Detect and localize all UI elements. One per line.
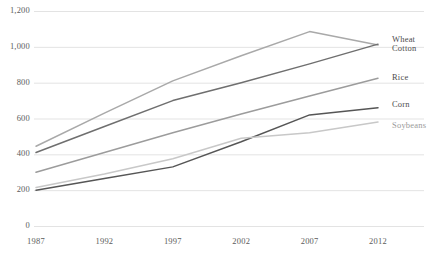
- x-tick-1987: 1987: [16, 236, 56, 246]
- y-tick-400: 400: [0, 148, 30, 158]
- series-lines: [36, 32, 378, 191]
- x-tick-2002: 2002: [221, 236, 261, 246]
- x-tick-1992: 1992: [84, 236, 124, 246]
- y-tick-1200: 1,200: [0, 5, 30, 15]
- series-line-cotton: [36, 44, 378, 152]
- y-tick-600: 600: [0, 113, 30, 123]
- y-tick-800: 800: [0, 77, 30, 87]
- series-line-wheat: [36, 32, 378, 147]
- y-tick-0: 0: [0, 220, 30, 230]
- series-label-cotton: Cotton: [392, 43, 416, 53]
- series-label-rice: Rice: [392, 72, 408, 82]
- x-tick-2012: 2012: [358, 236, 398, 246]
- series-label-corn: Corn: [392, 99, 410, 109]
- y-tick-200: 200: [0, 184, 30, 194]
- x-tick-1997: 1997: [153, 236, 193, 246]
- chart-canvas: [0, 0, 431, 253]
- x-tick-2007: 2007: [290, 236, 330, 246]
- y-tick-1000: 1,000: [0, 41, 30, 51]
- line-chart: 1,2001,0008006004002000 1987199219972002…: [0, 0, 431, 253]
- series-label-soybeans: Soybeans: [392, 120, 426, 130]
